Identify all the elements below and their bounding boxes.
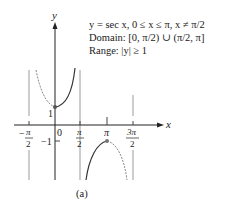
domain-text: Domain: [0, π/2) ∪ (π/2, π] <box>89 31 205 44</box>
svg-text:π: π <box>77 127 82 137</box>
curve-upper-branch <box>55 68 75 107</box>
svg-text:−: − <box>19 128 25 139</box>
y-tick-label-1: 1 <box>48 108 53 119</box>
svg-text:2: 2 <box>77 139 82 149</box>
x-ticks <box>29 117 133 125</box>
curve-right-dashed <box>107 141 127 180</box>
equation-text: y = sec x, 0 ≤ x ≤ π, x ≠ π/2 <box>89 18 205 31</box>
y-tick-label-neg1: −1 <box>41 136 52 147</box>
svg-text:π: π <box>26 127 31 137</box>
x-axis-arrow-icon <box>157 123 164 128</box>
svg-text:2: 2 <box>26 139 31 149</box>
y-axis-arrow-icon <box>53 22 58 29</box>
x-axis-label: x <box>165 118 171 130</box>
x-tick-label-0: 0 <box>57 127 62 138</box>
svg-text:2: 2 <box>130 139 135 149</box>
x-tick-label-neg-pi-over-2: − π 2 <box>19 127 33 149</box>
point-pi-neg1 <box>105 139 109 143</box>
range-text: Range: |y| ≥ 1 <box>89 44 205 57</box>
curve-lower-branch <box>86 141 107 180</box>
x-tick-label-3pi-over-2: 3π 2 <box>126 127 139 149</box>
curve-left-dashed <box>36 70 55 107</box>
y-axis-label: y <box>51 9 57 21</box>
x-tick-label-pi: π <box>104 127 110 138</box>
svg-text:3π: 3π <box>126 127 137 137</box>
figure-caption: (a) <box>76 188 88 199</box>
x-tick-label-pi-over-2: π 2 <box>76 127 84 149</box>
point-0-1 <box>53 105 57 109</box>
figure-info: y = sec x, 0 ≤ x ≤ π, x ≠ π/2 Domain: [0… <box>89 18 205 57</box>
